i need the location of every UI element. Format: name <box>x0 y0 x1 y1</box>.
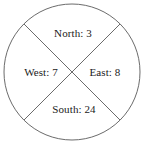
sector-label-north: North: 3 <box>54 28 92 39</box>
diagram-container: North: 3 West: 7 East: 8 South: 24 <box>0 0 146 145</box>
circle-diagram-graphic <box>0 0 146 145</box>
sector-label-west: West: 7 <box>24 67 58 78</box>
sector-label-east: East: 8 <box>90 67 121 78</box>
sector-label-south: South: 24 <box>52 104 95 115</box>
